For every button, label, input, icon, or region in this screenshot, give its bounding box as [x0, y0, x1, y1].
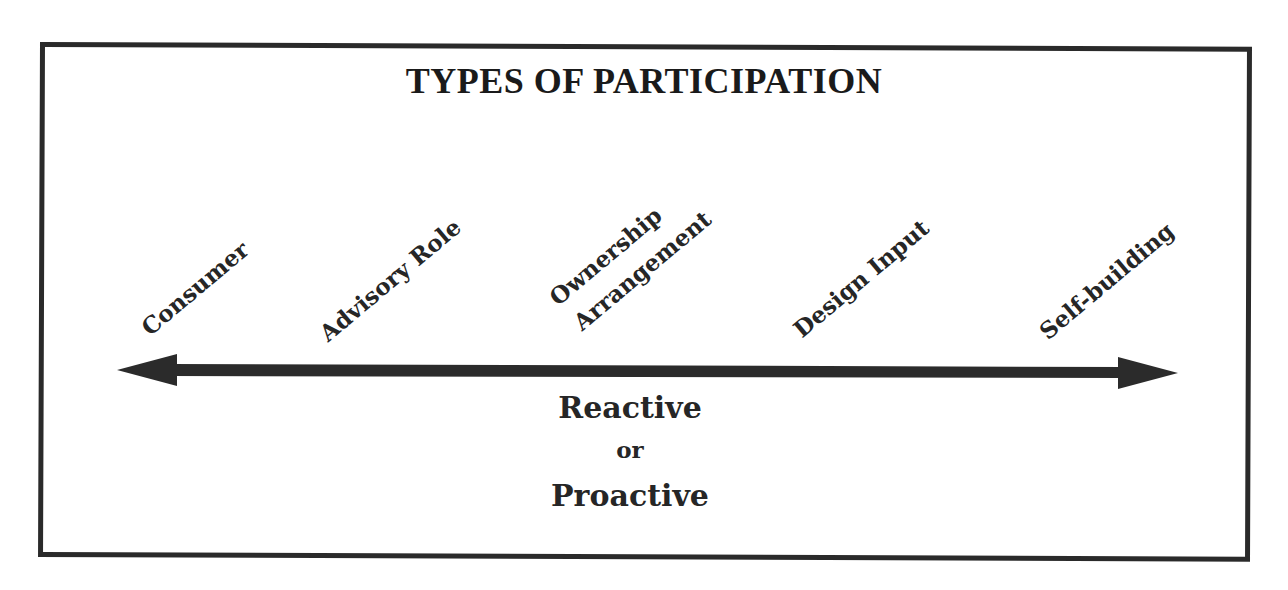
caption-proactive: Proactive: [500, 481, 760, 511]
arrow-head-right-icon: [1118, 357, 1178, 389]
arrow-head-left-icon: [117, 354, 177, 386]
caption-or: or: [500, 438, 760, 461]
arrow-shaft: [170, 364, 1124, 378]
caption-reactive: Reactive: [500, 393, 760, 423]
